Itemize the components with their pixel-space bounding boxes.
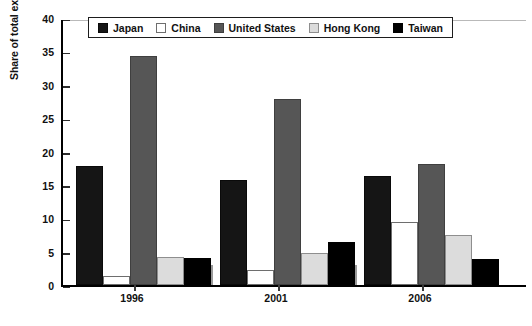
chart-legend: JapanChinaUnited StatesHong KongTaiwan <box>88 17 453 38</box>
legend-label-china: China <box>171 22 200 34</box>
y-tick-label: 40 <box>28 13 54 25</box>
legend-label-united-states: United States <box>229 22 296 34</box>
legend-swatch-china-icon <box>156 23 166 33</box>
y-tick-label: 35 <box>28 46 54 58</box>
legend-label-hong-kong: Hong Kong <box>324 22 381 34</box>
x-tick-label-1996: 1996 <box>102 292 162 304</box>
y-tick-label: 20 <box>28 147 54 159</box>
legend-item-china[interactable]: China <box>156 22 200 34</box>
bar-japan-2001 <box>220 180 247 285</box>
x-tick-label-2001: 2001 <box>246 292 306 304</box>
legend-swatch-japan-icon <box>98 23 108 33</box>
legend-item-japan[interactable]: Japan <box>98 22 143 34</box>
x-tick-mark-2001 <box>278 285 280 291</box>
legend-item-united-states[interactable]: United States <box>214 22 296 34</box>
legend-label-taiwan: Taiwan <box>408 22 443 34</box>
y-tick-label: 30 <box>28 80 54 92</box>
x-group-separator-2 <box>355 265 357 285</box>
bar-china-2006 <box>391 222 418 285</box>
bars-layer <box>63 20 526 285</box>
bar-china-2001 <box>247 270 274 285</box>
bar-japan-1996 <box>76 166 103 285</box>
legend-swatch-hong-kong-icon <box>309 23 319 33</box>
legend-swatch-taiwan-icon <box>393 23 403 33</box>
legend-item-taiwan[interactable]: Taiwan <box>393 22 443 34</box>
bar-hong-kong-2001 <box>301 253 328 285</box>
bar-chart-figure: Share of total exports (percent) 4035302… <box>0 0 532 326</box>
bar-group-2001 <box>220 20 360 285</box>
bar-group-2006 <box>364 20 504 285</box>
x-tick-mark-2006 <box>422 285 424 291</box>
legend-swatch-united-states-icon <box>214 23 224 33</box>
y-tick-mark <box>63 287 70 289</box>
x-group-separator-1 <box>211 265 213 285</box>
bar-united-states-2001 <box>274 99 301 285</box>
bar-taiwan-1996 <box>184 258 211 285</box>
bar-taiwan-2001 <box>328 242 355 285</box>
x-tick-mark-1996 <box>134 285 136 291</box>
bar-china-1996 <box>103 276 130 285</box>
legend-item-hong-kong[interactable]: Hong Kong <box>309 22 381 34</box>
x-tick-label-2006: 2006 <box>390 292 450 304</box>
y-tick-label: 5 <box>28 247 54 259</box>
plot-area: 4035302520151050 <box>61 20 526 287</box>
y-tick-label: 10 <box>28 213 54 225</box>
bar-group-1996 <box>76 20 216 285</box>
bar-taiwan-2006 <box>472 259 499 285</box>
bar-united-states-2006 <box>418 164 445 285</box>
bar-united-states-1996 <box>130 56 157 285</box>
y-axis-title: Share of total exports (percent) <box>8 0 20 80</box>
y-tick-label: 0 <box>28 280 54 292</box>
bar-hong-kong-2006 <box>445 235 472 285</box>
bar-japan-2006 <box>364 176 391 285</box>
legend-label-japan: Japan <box>113 22 143 34</box>
bar-hong-kong-1996 <box>157 257 184 285</box>
y-tick-label: 15 <box>28 180 54 192</box>
y-tick-label: 25 <box>28 113 54 125</box>
